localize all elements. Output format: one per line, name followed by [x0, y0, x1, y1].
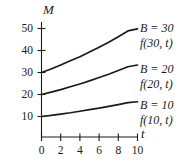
curve-label-b20: B = 20 f(20, t)	[140, 62, 173, 91]
curve-label-b30: B = 30 f(30, t)	[140, 21, 173, 50]
y-tick-label-30: 30	[13, 67, 33, 79]
curve-b30	[42, 29, 138, 73]
x-tick-label-6: 6	[91, 145, 107, 157]
y-tick-label-10: 10	[13, 111, 33, 123]
y-tick-label-20: 20	[13, 89, 33, 101]
curve-label-b30-function: f(30, t)	[140, 36, 173, 51]
x-axis-title: t	[141, 127, 145, 140]
curve-b10	[42, 102, 138, 117]
x-tick-label-4: 4	[72, 145, 88, 157]
curve-label-b10: B = 10 f(10, t)	[140, 98, 173, 127]
x-tick-label-2: 2	[53, 145, 69, 157]
curve-label-b20-function: f(20, t)	[140, 77, 173, 92]
curve-b20	[42, 65, 138, 94]
curve-label-b10-function: f(10, t)	[140, 113, 173, 128]
chart-figure: M t 50 40 30 20 10 0 2 4 6 8 10 B = 30 f…	[0, 0, 190, 168]
curve-label-b30-equation: B = 30	[140, 21, 173, 36]
x-tick-label-0: 0	[34, 145, 50, 157]
y-axis-title: M	[43, 3, 54, 16]
curve-label-b10-equation: B = 10	[140, 98, 173, 113]
curve-label-b20-equation: B = 20	[140, 62, 173, 77]
y-tick-label-50: 50	[13, 23, 33, 35]
x-tick-label-10: 10	[130, 145, 146, 157]
x-tick-label-8: 8	[110, 145, 126, 157]
y-tick-label-40: 40	[13, 45, 33, 57]
curve-group	[42, 29, 138, 117]
